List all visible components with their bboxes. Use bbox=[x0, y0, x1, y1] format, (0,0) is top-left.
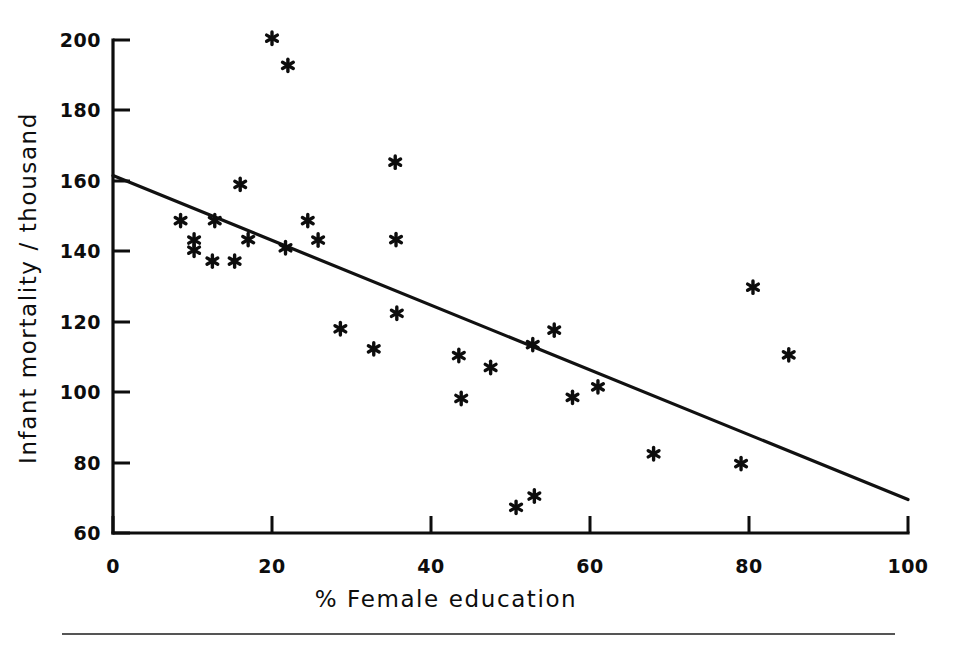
x-tick-label: 60 bbox=[576, 555, 603, 577]
data-point-marker bbox=[243, 233, 254, 245]
data-point-marker bbox=[485, 361, 496, 373]
x-tick-label: 80 bbox=[735, 555, 762, 577]
x-axis-ticks bbox=[113, 516, 908, 533]
data-point-marker bbox=[567, 391, 578, 403]
data-point-marker bbox=[175, 214, 186, 226]
data-point-marker bbox=[529, 490, 540, 502]
x-tick-label: 100 bbox=[887, 555, 928, 577]
data-point-marker bbox=[748, 281, 759, 293]
y-tick-label: 200 bbox=[60, 29, 101, 51]
data-point-marker bbox=[335, 323, 346, 335]
y-tick-labels: 200 180 160 140 120 100 80 60 bbox=[60, 29, 101, 544]
x-tick-label: 40 bbox=[417, 555, 444, 577]
data-point-marker bbox=[391, 233, 402, 245]
data-point-marker bbox=[390, 156, 401, 168]
data-point-marker bbox=[549, 324, 560, 336]
trend-line bbox=[113, 176, 908, 500]
y-tick-label: 60 bbox=[74, 522, 101, 544]
data-point-marker bbox=[453, 349, 464, 361]
data-point-marker bbox=[207, 255, 218, 267]
data-point-group bbox=[175, 32, 794, 513]
y-tick-label: 120 bbox=[60, 311, 101, 333]
x-tick-label: 20 bbox=[258, 555, 285, 577]
data-point-marker bbox=[189, 244, 200, 256]
data-point-marker bbox=[229, 255, 240, 267]
x-tick-label: 0 bbox=[106, 555, 120, 577]
chart-canvas: 200 180 160 140 120 100 80 60 0 20 40 60… bbox=[0, 0, 955, 647]
y-axis-title: Infant mortality / thousand bbox=[15, 112, 41, 464]
y-axis-ticks bbox=[113, 40, 130, 533]
x-axis-title: % Female education bbox=[315, 586, 578, 612]
data-point-marker bbox=[511, 501, 522, 513]
y-tick-label: 160 bbox=[60, 170, 101, 192]
data-point-marker bbox=[783, 349, 794, 361]
data-point-marker bbox=[648, 448, 659, 460]
y-tick-label: 80 bbox=[74, 452, 101, 474]
data-point-marker bbox=[593, 381, 604, 393]
data-point-marker bbox=[456, 392, 467, 404]
y-tick-label: 180 bbox=[60, 99, 101, 121]
data-point-marker bbox=[283, 59, 294, 71]
data-point-marker bbox=[267, 32, 278, 44]
scatter-chart-figure: 200 180 160 140 120 100 80 60 0 20 40 60… bbox=[0, 0, 955, 647]
data-point-marker bbox=[736, 457, 747, 469]
data-point-marker bbox=[391, 307, 402, 319]
data-point-marker bbox=[368, 343, 379, 355]
data-point-marker bbox=[302, 214, 313, 226]
data-point-marker bbox=[235, 178, 246, 190]
x-tick-labels: 0 20 40 60 80 100 bbox=[106, 555, 928, 577]
data-point-marker bbox=[313, 234, 324, 246]
y-tick-label: 140 bbox=[60, 240, 101, 262]
y-tick-label: 100 bbox=[60, 381, 101, 403]
